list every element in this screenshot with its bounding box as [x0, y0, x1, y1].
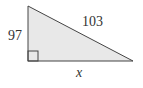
vertical-leg-label: 97: [8, 28, 22, 43]
right-triangle-diagram: 97 103 x: [0, 0, 143, 88]
triangle-shape: [28, 6, 133, 61]
horizontal-leg-label: x: [75, 65, 83, 80]
hypotenuse-label: 103: [82, 14, 103, 29]
